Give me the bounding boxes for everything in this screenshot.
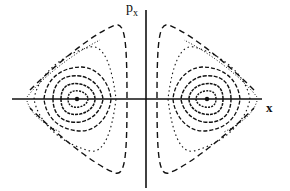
left-fixed-point bbox=[75, 97, 79, 101]
diagram-canvas bbox=[0, 0, 290, 191]
phase-space-diagram: px x bbox=[0, 0, 290, 191]
px-axis-label: px bbox=[126, 0, 138, 18]
px-label-sub: x bbox=[133, 7, 138, 18]
px-label-base: p bbox=[126, 0, 133, 15]
right-fixed-point bbox=[205, 97, 209, 101]
x-axis-label: x bbox=[266, 100, 273, 116]
